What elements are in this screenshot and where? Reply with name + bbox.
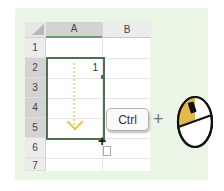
row-header-6[interactable]: 6	[25, 138, 46, 158]
cell-a2-value[interactable]: 1	[78, 62, 98, 73]
plus-sign: +	[153, 108, 164, 130]
row-header-2[interactable]: 2	[25, 58, 46, 78]
column-header-a[interactable]: A	[46, 22, 102, 38]
ctrl-key: Ctrl	[106, 108, 149, 131]
column-header-b[interactable]: B	[102, 22, 151, 38]
gridline	[46, 158, 150, 159]
row-header-3[interactable]: 3	[25, 78, 46, 98]
row-header-4[interactable]: 4	[25, 98, 46, 118]
row-header-7[interactable]: 7	[25, 158, 46, 171]
fill-handle[interactable]	[101, 75, 105, 79]
select-all-corner[interactable]	[25, 22, 47, 38]
row-header-1[interactable]: 1	[25, 38, 46, 58]
corner-triangle-icon	[32, 24, 44, 35]
clipboard-icon[interactable]	[103, 146, 111, 156]
row-header-5[interactable]: 5	[25, 118, 46, 138]
mouse-icon	[175, 93, 215, 150]
